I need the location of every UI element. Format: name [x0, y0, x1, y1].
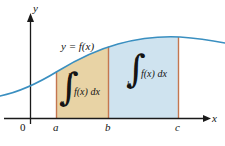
integral-expression-a-to-b: ∫ b a f(x) dx — [59, 74, 100, 108]
integral-sign-wrapper-a-to-b: ∫ b a — [59, 74, 72, 108]
tick-label-c: c — [175, 122, 180, 133]
integral-lower-limit-b: b — [127, 81, 131, 89]
x-axis-label: x — [212, 113, 217, 124]
y-axis-arrow-icon — [27, 13, 34, 22]
x-axis-arrow-icon — [203, 115, 211, 122]
origin-label: 0 — [20, 122, 26, 133]
y-axis-label: y — [33, 3, 38, 14]
integral-expression-b-to-c: ∫ c b f(x) dx — [126, 56, 167, 90]
integral-lower-limit-a: a — [60, 99, 64, 107]
integral-upper-limit-b: b — [68, 73, 72, 81]
integral-upper-limit-c: c — [135, 55, 139, 63]
curve-equation-label: y = f(x) — [61, 41, 94, 52]
tick-label-b: b — [105, 122, 111, 133]
integral-figure: y x 0 a b c y = f(x) ∫ b a f(x) dx ∫ c b… — [0, 0, 225, 146]
integral-sign-wrapper-b-to-c: ∫ c b — [126, 56, 139, 90]
figure-canvas — [0, 0, 225, 146]
tick-label-a: a — [53, 122, 59, 133]
